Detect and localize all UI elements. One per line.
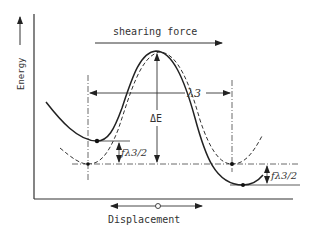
energy-displacement-diagram: Energy shearing force <box>0 0 326 232</box>
shearing-force-group: shearing force <box>95 26 222 43</box>
displacement-group: Displacement <box>108 204 202 226</box>
left-dashed-minimum-dot <box>86 162 90 166</box>
left-shift-group: fλ3/2 <box>119 143 147 162</box>
right-solid-minimum-dot <box>241 183 245 187</box>
displacement-origin-icon <box>156 204 161 209</box>
displacement-axis-label: Displacement <box>108 214 180 225</box>
shearing-force-label: shearing force <box>113 26 197 37</box>
axes <box>34 14 293 199</box>
left-shift-label: fλ3/2 <box>120 147 147 158</box>
energy-axis-label: Energy <box>16 57 26 90</box>
barrier-label: ΔE <box>150 113 162 124</box>
right-shift-label: fλ3/2 <box>270 170 297 181</box>
left-solid-minimum-dot <box>95 139 99 143</box>
right-dashed-minimum-dot <box>230 162 234 166</box>
energy-axis-label-group: Energy <box>16 17 26 90</box>
period-arrow-group: λ3 <box>90 87 230 100</box>
minima-points <box>86 139 245 187</box>
right-shift-group: fλ3/2 <box>267 166 297 183</box>
period-label: λ3 <box>186 87 201 100</box>
barrier-arrow-group: ΔE <box>150 54 162 162</box>
